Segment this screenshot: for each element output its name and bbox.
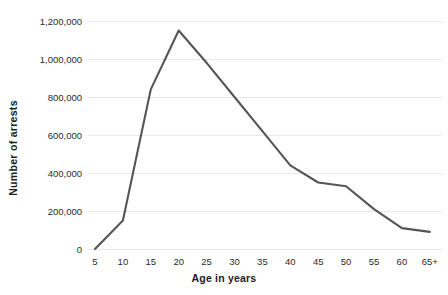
y-axis-tick-labels: 0200,000400,000600,000800,0001,000,0001,… bbox=[40, 16, 82, 255]
arrests-by-age-line-chart: Number of arrests 0200,000400,000600,000… bbox=[0, 0, 448, 295]
x-axis-tick-label: 45 bbox=[313, 256, 324, 267]
y-axis-tick-label: 600,000 bbox=[48, 130, 82, 141]
x-axis-tick-label: 55 bbox=[369, 256, 380, 267]
y-axis-tick-label: 1,200,000 bbox=[40, 16, 82, 27]
x-axis-tick-label: 25 bbox=[201, 256, 212, 267]
x-axis-tick-label: 20 bbox=[173, 256, 184, 267]
x-axis-tick-labels: 5101520253035404550556065+ bbox=[92, 256, 438, 267]
arrests-series-line bbox=[95, 31, 430, 250]
y-axis-tick-label: 200,000 bbox=[48, 206, 82, 217]
y-axis-tick-label: 1,000,000 bbox=[40, 54, 82, 65]
x-axis-tick-label: 35 bbox=[257, 256, 268, 267]
chart-plot-area: 0200,000400,000600,000800,0001,000,0001,… bbox=[0, 0, 448, 295]
x-axis-tick-label: 10 bbox=[118, 256, 129, 267]
x-axis-tick-label: 65+ bbox=[422, 256, 439, 267]
x-axis-tick-label: 30 bbox=[229, 256, 240, 267]
x-axis-title: Age in years bbox=[0, 272, 448, 284]
y-axis-tick-label: 0 bbox=[77, 244, 82, 255]
x-axis-tick-label: 15 bbox=[146, 256, 157, 267]
x-axis-tick-label: 40 bbox=[285, 256, 296, 267]
x-axis-tick-label: 60 bbox=[397, 256, 408, 267]
x-axis-tick-label: 5 bbox=[92, 256, 97, 267]
x-axis-tick-label: 50 bbox=[341, 256, 352, 267]
y-axis-tick-label: 800,000 bbox=[48, 92, 82, 103]
y-axis-tick-label: 400,000 bbox=[48, 168, 82, 179]
